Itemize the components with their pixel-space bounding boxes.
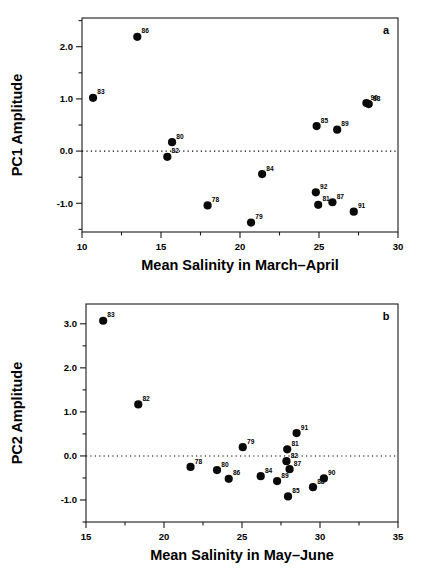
data-point-label: 84 bbox=[265, 467, 273, 474]
data-point-label: 82 bbox=[142, 395, 150, 402]
data-point-label: 83 bbox=[97, 88, 105, 95]
data-point bbox=[350, 208, 358, 216]
data-point-label: 85 bbox=[321, 117, 329, 124]
data-point-label: 84 bbox=[266, 165, 274, 172]
panel-letter: a bbox=[383, 24, 390, 36]
data-point-label: 87 bbox=[337, 193, 345, 200]
data-point bbox=[168, 138, 176, 146]
y-tick-label: 0.0 bbox=[64, 450, 77, 461]
panel-a: 1015202530-1.00.01.02.0Mean Salinity in … bbox=[0, 0, 430, 290]
data-point bbox=[204, 201, 212, 209]
data-point-label: 89 bbox=[341, 120, 349, 127]
data-point bbox=[285, 465, 293, 473]
data-point bbox=[163, 153, 171, 161]
scatter-plot-b: 1520253035-1.00.01.02.03.0Mean Salinity … bbox=[0, 290, 430, 577]
data-point-label: 92 bbox=[320, 183, 328, 190]
data-point-label: 79 bbox=[247, 438, 255, 445]
x-tick-label: 10 bbox=[77, 241, 88, 252]
data-point bbox=[314, 201, 322, 209]
plot-frame bbox=[82, 18, 398, 232]
data-point-group: 838278808679848982818785918890 bbox=[99, 311, 336, 500]
x-tick-label: 20 bbox=[235, 241, 246, 252]
data-point-label: 90 bbox=[328, 469, 336, 476]
data-point-label: 82 bbox=[172, 147, 180, 154]
figure-container: 1015202530-1.00.01.02.0Mean Salinity in … bbox=[0, 0, 430, 577]
y-tick-label: 1.0 bbox=[64, 406, 77, 417]
data-point bbox=[293, 429, 301, 437]
data-point-label: 88 bbox=[373, 95, 381, 102]
y-tick-label: 2.0 bbox=[64, 362, 77, 373]
data-point bbox=[320, 474, 328, 482]
x-tick-label: 35 bbox=[393, 531, 404, 542]
data-point bbox=[239, 443, 247, 451]
data-point bbox=[89, 94, 97, 102]
scatter-plot-a: 1015202530-1.00.01.02.0Mean Salinity in … bbox=[0, 0, 430, 290]
data-point-label: 80 bbox=[221, 461, 229, 468]
data-point bbox=[312, 188, 320, 196]
x-tick-label: 15 bbox=[156, 241, 167, 252]
data-point-label: 86 bbox=[142, 27, 150, 34]
x-axis-title: Mean Salinity in May–June bbox=[150, 547, 334, 563]
plot-frame bbox=[86, 304, 398, 522]
y-axis-title: PC2 Amplitude bbox=[9, 362, 25, 465]
data-point-label: 81 bbox=[291, 440, 299, 447]
data-point-label: 78 bbox=[195, 458, 203, 465]
data-point bbox=[134, 400, 142, 408]
data-point bbox=[273, 477, 281, 485]
data-point-label: 86 bbox=[233, 469, 241, 476]
data-point-label: 83 bbox=[107, 311, 115, 318]
data-point bbox=[186, 463, 194, 471]
x-tick-label: 30 bbox=[315, 531, 326, 542]
y-tick-label: 1.0 bbox=[60, 93, 73, 104]
y-tick-label: -1.0 bbox=[61, 494, 77, 505]
data-point-label: 80 bbox=[176, 133, 184, 140]
data-point bbox=[284, 492, 292, 500]
data-point bbox=[213, 466, 221, 474]
x-tick-label: 20 bbox=[159, 531, 170, 542]
y-tick-label: 0.0 bbox=[60, 145, 73, 156]
data-point bbox=[365, 100, 373, 108]
y-tick-label: 3.0 bbox=[64, 318, 77, 329]
data-point-label: 85 bbox=[292, 487, 300, 494]
panel-b: 1520253035-1.00.01.02.03.0Mean Salinity … bbox=[0, 290, 430, 577]
x-tick-label: 30 bbox=[393, 241, 404, 252]
data-point bbox=[283, 445, 291, 453]
panel-letter: b bbox=[383, 310, 390, 322]
data-point bbox=[309, 483, 317, 491]
data-point bbox=[313, 122, 321, 130]
data-point-label: 78 bbox=[212, 196, 220, 203]
data-point-group: 838680827879849281858789919088 bbox=[89, 27, 381, 226]
data-point-label: 91 bbox=[301, 424, 309, 431]
data-point bbox=[328, 198, 336, 206]
y-tick-label: 2.0 bbox=[60, 41, 73, 52]
data-point-label: 87 bbox=[294, 460, 302, 467]
data-point bbox=[133, 33, 141, 41]
x-tick-label: 15 bbox=[81, 531, 92, 542]
data-point bbox=[225, 475, 233, 483]
data-point bbox=[258, 170, 266, 178]
x-axis-title: Mean Salinity in March–April bbox=[141, 257, 338, 273]
x-tick-label: 25 bbox=[237, 531, 248, 542]
data-point-label: 82 bbox=[291, 452, 299, 459]
data-point bbox=[333, 126, 341, 134]
y-tick-label: -1.0 bbox=[57, 198, 73, 209]
data-point bbox=[282, 457, 290, 465]
y-axis-title: PC1 Amplitude bbox=[9, 74, 25, 177]
data-point-label: 79 bbox=[255, 213, 263, 220]
data-point-label: 91 bbox=[358, 202, 366, 209]
data-point bbox=[247, 219, 255, 227]
data-point bbox=[257, 472, 265, 480]
data-point bbox=[99, 317, 107, 325]
x-tick-label: 25 bbox=[314, 241, 325, 252]
